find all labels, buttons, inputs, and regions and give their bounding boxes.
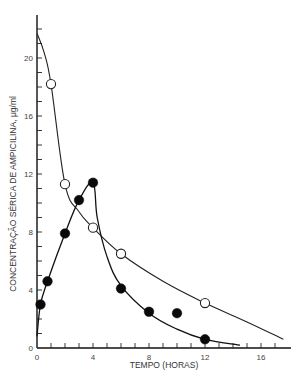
filled-circle-marker: [74, 195, 84, 205]
filled-circle-marker: [88, 178, 98, 188]
filled-circle-marker: [43, 277, 53, 287]
filled-circle-marker: [200, 335, 210, 345]
open-circles-curve: [37, 33, 283, 339]
filled-circles-curve: [37, 182, 240, 345]
y-tick-label: 0: [29, 344, 34, 353]
y-tick-label: 8: [29, 228, 34, 237]
data-markers: [36, 80, 210, 345]
filled-circle-marker: [144, 307, 154, 317]
filled-circle-marker: [36, 300, 46, 310]
y-tick-label: 12: [24, 170, 33, 179]
open-circle-marker: [200, 298, 209, 307]
open-circle-marker: [88, 223, 97, 232]
x-axis-label: TEMPO (HORAS): [130, 360, 199, 370]
y-tick-label: 16: [24, 112, 33, 121]
x-tick-label: 0: [35, 353, 40, 362]
filled-circle-marker: [60, 229, 70, 239]
y-tick-label: 20: [24, 54, 33, 63]
open-circle-marker: [46, 80, 55, 89]
pharmacokinetic-chart: 0481216048121620 TEMPO (HORAS) CONCENTRA…: [0, 0, 305, 388]
open-circle-marker: [60, 180, 69, 189]
filled-circle-marker: [172, 308, 182, 318]
x-tick-label: 16: [257, 353, 266, 362]
open-circle-marker: [116, 249, 125, 258]
y-axis-label: CONCENTRAÇÃO SÉRICA DE AMPICILINA, μg/ml: [8, 96, 18, 292]
curves: [37, 33, 283, 345]
filled-circle-marker: [116, 284, 126, 294]
x-tick-label: 4: [91, 353, 96, 362]
x-tick-label: 12: [201, 353, 210, 362]
y-tick-label: 4: [29, 286, 34, 295]
